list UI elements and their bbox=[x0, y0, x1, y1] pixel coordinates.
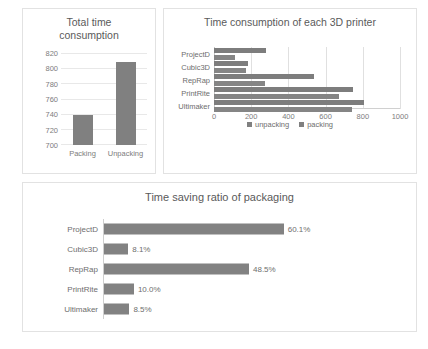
saving-bar-row: ProjectD60.1% bbox=[103, 219, 402, 239]
saving-bar-row: RepRap48.5% bbox=[103, 259, 402, 279]
data-label: 60.1% bbox=[288, 225, 311, 234]
category-label: ProjectD bbox=[181, 49, 210, 58]
bar-group-row: ProjectD bbox=[214, 47, 400, 60]
chart-title-line2: consumption bbox=[23, 29, 155, 42]
legend-label: packing bbox=[307, 120, 333, 129]
y-axis-tick-label: 800 bbox=[45, 64, 58, 73]
time-saving-ratio-panel: Time saving ratio of packaging ProjectD6… bbox=[22, 182, 417, 332]
bar-group-row: Cubic3D bbox=[214, 60, 400, 73]
legend-label: unpacking bbox=[255, 120, 289, 129]
chart-legend: unpackingpacking bbox=[172, 120, 408, 129]
category-label: PrintRite bbox=[181, 88, 210, 97]
legend-swatch bbox=[247, 122, 252, 127]
gridline: 820 bbox=[61, 53, 147, 54]
bar-unpacking bbox=[214, 100, 364, 105]
category-label: Cubic3D bbox=[67, 245, 98, 254]
bar-packing bbox=[214, 107, 352, 112]
saving-bar-row: PrintRite10.0% bbox=[103, 279, 402, 299]
total-time-chart-title: Total time consumption bbox=[23, 9, 155, 41]
legend-item-unpacking: unpacking bbox=[247, 120, 289, 129]
category-label: Ultimaker bbox=[178, 101, 210, 110]
category-label: RepRap bbox=[182, 75, 210, 84]
time-consumption-each-printer-panel: Time consumption of each 3D printer 0200… bbox=[163, 8, 417, 174]
category-label: Cubic3D bbox=[181, 62, 210, 71]
saving-bar bbox=[104, 284, 134, 295]
legend-item-packing: packing bbox=[299, 120, 333, 129]
x-axis-category-label: Packing bbox=[69, 149, 96, 158]
time-saving-chart-title: Time saving ratio of packaging bbox=[23, 183, 416, 204]
y-axis-tick-label: 720 bbox=[45, 125, 58, 134]
y-axis-tick-label: 760 bbox=[45, 95, 58, 104]
data-label: 10.0% bbox=[138, 285, 161, 294]
chart-title-line1: Total time bbox=[23, 16, 155, 29]
bar-unpacking bbox=[214, 74, 314, 79]
total-time-plot-area: 700720740760780800820PackingUnpacking bbox=[33, 54, 149, 145]
saving-bar bbox=[104, 224, 284, 235]
x-axis-category-label: Unpacking bbox=[108, 149, 143, 158]
saving-bar bbox=[104, 304, 129, 315]
bar-unpacking bbox=[214, 87, 353, 92]
each-printer-chart-title: Time consumption of each 3D printer bbox=[164, 9, 416, 29]
total-time-consumption-panel: Total time consumption 70072074076078080… bbox=[22, 8, 156, 174]
bar-unpacking bbox=[214, 61, 248, 66]
category-label: ProjectD bbox=[67, 225, 98, 234]
bar-group-row: PrintRite bbox=[214, 86, 400, 99]
data-label: 48.5% bbox=[253, 265, 276, 274]
y-axis-tick-label: 740 bbox=[45, 110, 58, 119]
y-axis-tick-label: 780 bbox=[45, 79, 58, 88]
gridline bbox=[400, 47, 401, 109]
bar-unpacking bbox=[214, 48, 266, 53]
category-label: PrintRite bbox=[67, 285, 98, 294]
y-axis-tick-label: 820 bbox=[45, 49, 58, 58]
each-printer-plot-area: 02004006008001000ProjectDCubic3DRepRapPr… bbox=[172, 45, 408, 133]
y-axis-tick-label: 700 bbox=[45, 141, 58, 150]
data-label: 8.1% bbox=[132, 245, 150, 254]
data-label: 8.5% bbox=[133, 305, 151, 314]
bar-group-row: Ultimaker bbox=[214, 99, 400, 112]
saving-bar bbox=[104, 264, 249, 275]
saving-bar-area: ProjectD60.1%Cubic3D8.1%RepRap48.5%Print… bbox=[103, 219, 402, 319]
grouped-bar-area: 02004006008001000ProjectDCubic3DRepRapPr… bbox=[214, 47, 400, 121]
column-bar bbox=[116, 62, 136, 145]
saving-bar-row: Cubic3D8.1% bbox=[103, 239, 402, 259]
time-saving-plot-area: ProjectD60.1%Cubic3D8.1%RepRap48.5%Print… bbox=[35, 217, 406, 321]
category-label: RepRap bbox=[69, 265, 98, 274]
column-bar bbox=[73, 115, 93, 145]
saving-bar bbox=[104, 244, 128, 255]
column-chart-gridlines: 700720740760780800820PackingUnpacking bbox=[61, 54, 147, 145]
legend-swatch bbox=[299, 122, 304, 127]
saving-bar-row: Ultimaker8.5% bbox=[103, 299, 402, 319]
category-label: Ultimaker bbox=[64, 305, 98, 314]
bar-group-row: RepRap bbox=[214, 73, 400, 86]
